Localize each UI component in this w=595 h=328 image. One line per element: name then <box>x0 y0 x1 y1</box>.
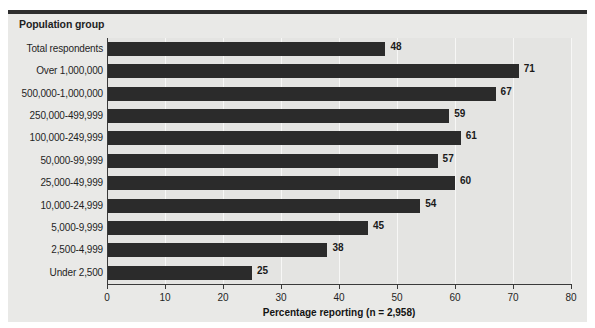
x-tick-mark-0 <box>107 284 108 289</box>
x-tick-label-50: 50 <box>391 292 402 303</box>
bar-value-label: 57 <box>443 153 454 164</box>
x-tick-label-60: 60 <box>449 292 460 303</box>
bar <box>107 221 368 235</box>
bar-row: 59 <box>107 105 571 127</box>
bar <box>107 266 252 280</box>
bar <box>107 109 449 123</box>
bar-row: 25 <box>107 262 571 284</box>
bar-value-label: 61 <box>466 130 477 141</box>
bar-row: 60 <box>107 172 571 194</box>
bar-value-label: 60 <box>460 175 471 186</box>
bar <box>107 199 420 213</box>
y-axis-tick-label: Under 2,500 <box>0 267 103 278</box>
x-tick-label-0: 0 <box>104 292 110 303</box>
x-tick-label-80: 80 <box>565 292 576 303</box>
x-tick-mark-50 <box>397 284 398 289</box>
y-axis-tick-label: 100,000-249,999 <box>0 132 103 143</box>
bar-row: 38 <box>107 239 571 261</box>
y-axis-tick-label: 500,000-1,000,000 <box>0 88 103 99</box>
bar <box>107 64 519 78</box>
y-axis-tick-label: Total respondents <box>0 43 103 54</box>
y-axis-tick-label: 2,500-4,999 <box>0 244 103 255</box>
y-axis-tick-label: Over 1,000,000 <box>0 65 103 76</box>
x-tick-mark-10 <box>165 284 166 289</box>
y-axis-tick-label: 50,000-99,999 <box>0 155 103 166</box>
bar-value-label: 45 <box>373 220 384 231</box>
bar-row: 67 <box>107 83 571 105</box>
plot-area: 4871675961576054453825 <box>107 38 571 284</box>
y-axis-tick-label: 25,000-49,999 <box>0 177 103 188</box>
y-axis-tick-label: 250,000-499,999 <box>0 110 103 121</box>
bar-value-label: 48 <box>390 41 401 52</box>
x-tick-label-40: 40 <box>333 292 344 303</box>
bar-value-label: 54 <box>425 198 436 209</box>
y-axis-group-header: Population group <box>19 18 104 30</box>
x-axis-title: Percentage reporting (n = 2,958) <box>107 307 571 318</box>
top-rule-divider <box>8 10 587 14</box>
x-tick-label-10: 10 <box>159 292 170 303</box>
x-tick-label-30: 30 <box>275 292 286 303</box>
bar-row: 71 <box>107 60 571 82</box>
bar <box>107 131 461 145</box>
x-tick-mark-30 <box>281 284 282 289</box>
x-tick-mark-60 <box>455 284 456 289</box>
chart-figure: Population group 4871675961576054453825 … <box>0 0 595 328</box>
x-tick-mark-20 <box>223 284 224 289</box>
bar-row: 45 <box>107 217 571 239</box>
x-tick-label-70: 70 <box>507 292 518 303</box>
bar-value-label: 38 <box>332 242 343 253</box>
bar-row: 48 <box>107 38 571 60</box>
bar-value-label: 67 <box>501 86 512 97</box>
y-axis-line <box>107 38 108 284</box>
bar <box>107 154 438 168</box>
x-tick-mark-80 <box>571 284 572 289</box>
x-tick-label-20: 20 <box>217 292 228 303</box>
bar-row: 61 <box>107 127 571 149</box>
x-tick-mark-70 <box>513 284 514 289</box>
y-axis-tick-label: 10,000-24,999 <box>0 200 103 211</box>
bar-row: 57 <box>107 150 571 172</box>
bar <box>107 87 496 101</box>
bar-value-label: 25 <box>257 265 268 276</box>
bar <box>107 243 327 257</box>
bar <box>107 42 385 56</box>
x-tick-mark-40 <box>339 284 340 289</box>
gridline-80 <box>571 38 572 284</box>
y-axis-tick-label: 5,000-9,999 <box>0 222 103 233</box>
bar-value-label: 59 <box>454 108 465 119</box>
bar-value-label: 71 <box>524 63 535 74</box>
bar-row: 54 <box>107 195 571 217</box>
bar <box>107 176 455 190</box>
